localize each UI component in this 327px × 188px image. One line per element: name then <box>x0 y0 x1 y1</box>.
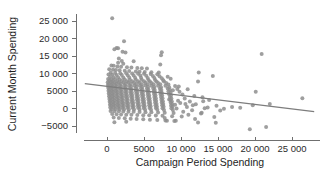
scatter-point <box>183 97 187 101</box>
scatter-point <box>196 80 200 84</box>
scatter-point <box>158 62 162 66</box>
scatter-point <box>172 119 176 123</box>
scatter-point <box>148 118 152 122</box>
scatter-point <box>214 121 218 125</box>
scatter-point <box>122 39 126 43</box>
scatter-point <box>211 74 215 78</box>
scatter-point <box>129 66 133 70</box>
scatter-point <box>141 113 145 117</box>
y-tick-label: 5000 <box>47 85 68 96</box>
scatter-point <box>260 52 264 56</box>
scatter-point <box>186 87 190 91</box>
scatter-point <box>154 114 158 118</box>
scatter-point <box>124 120 128 124</box>
scatter-point <box>181 110 185 114</box>
scatter-point <box>173 103 177 107</box>
scatter-point <box>197 70 201 74</box>
scatter-point <box>112 64 116 68</box>
scatter-point <box>176 99 180 103</box>
y-tick-label: 10 000 <box>39 68 68 79</box>
y-tick-label: −5000 <box>41 120 68 131</box>
scatter-point <box>123 116 127 120</box>
scatter-point <box>222 107 226 111</box>
scatter-point <box>190 108 194 112</box>
scatter-point <box>188 100 192 104</box>
scatter-point <box>186 113 190 117</box>
scatter-point <box>206 105 210 109</box>
scatter-point <box>112 120 116 124</box>
scatter-point <box>112 116 116 120</box>
x-tick-label: 0 <box>104 143 109 154</box>
x-tick-label: 10 000 <box>166 143 195 154</box>
scatter-point <box>254 90 258 94</box>
scatter-point <box>212 115 216 119</box>
scatter-plot-figure: −50000500010 00015 00020 00025 000 05000… <box>0 0 327 188</box>
scatter-point <box>110 112 114 116</box>
scatter-point <box>141 117 145 121</box>
scatter-point <box>112 47 116 51</box>
scatter-point <box>140 66 144 70</box>
scatter-point <box>135 117 139 121</box>
scatter-point <box>215 104 219 108</box>
scatter-point <box>115 112 119 116</box>
scatter-point <box>196 121 200 125</box>
scatter-point <box>218 109 222 113</box>
x-tick-label: 25 000 <box>277 143 306 154</box>
scatter-point <box>230 105 234 109</box>
scatter-point <box>170 114 174 118</box>
scatter-point <box>167 97 171 101</box>
scatter-point <box>178 90 182 94</box>
scatter-point <box>268 102 272 106</box>
scatter-point <box>119 112 123 116</box>
scatter-point <box>177 84 181 88</box>
scatter-point <box>129 117 133 121</box>
scatter-point <box>115 65 119 69</box>
scatter-point <box>201 99 205 103</box>
y-tick-label: 25 000 <box>39 15 68 26</box>
scatter-point <box>300 96 304 100</box>
y-tick-label: 15 000 <box>39 50 68 61</box>
x-axis-title: Campaign Period Spending <box>136 156 265 168</box>
scatter-point <box>183 102 187 106</box>
scatter-point <box>125 65 129 69</box>
scatter-point <box>129 113 133 117</box>
x-tick-label: 20 000 <box>240 143 269 154</box>
y-axis-ticks <box>72 21 77 126</box>
scatter-point <box>116 61 120 65</box>
scatter-point <box>124 51 128 55</box>
scatter-point <box>117 116 121 120</box>
chart-canvas: −50000500010 00015 00020 00025 000 05000… <box>0 0 327 188</box>
scatter-point <box>119 65 123 69</box>
scatter-point <box>145 67 149 71</box>
scatter-point <box>169 77 173 81</box>
y-tick-label: 0 <box>63 103 68 114</box>
scatter-point <box>147 113 151 117</box>
scatter-point <box>264 125 268 129</box>
scatter-point <box>175 107 179 111</box>
scatter-point <box>159 53 163 57</box>
scatter-point <box>171 88 175 92</box>
scatter-point <box>238 106 242 110</box>
data-points-layer <box>106 16 305 131</box>
scatter-point <box>180 115 184 119</box>
scatter-point <box>191 103 195 107</box>
scatter-point <box>135 113 139 117</box>
scatter-point <box>107 67 111 71</box>
x-axis-tick-labels: 0500010 00015 00020 00025 000 <box>104 143 306 154</box>
scatter-point <box>193 117 197 121</box>
scatter-point <box>248 127 252 131</box>
x-tick-label: 5000 <box>133 143 154 154</box>
scatter-point <box>110 16 114 20</box>
y-tick-label: 20 000 <box>39 33 68 44</box>
scatter-point <box>155 118 159 122</box>
scatter-point <box>135 66 139 70</box>
scatter-point <box>116 46 120 50</box>
y-axis-title: Current Month Spending <box>6 17 18 132</box>
x-axis-ticks <box>107 137 292 141</box>
scatter-point <box>163 116 167 120</box>
x-tick-label: 15 000 <box>203 143 232 154</box>
scatter-point <box>200 111 204 115</box>
y-axis-tick-labels: −50000500010 00015 00020 00025 000 <box>39 15 68 131</box>
scatter-point <box>124 113 128 117</box>
scatter-point <box>132 59 136 63</box>
